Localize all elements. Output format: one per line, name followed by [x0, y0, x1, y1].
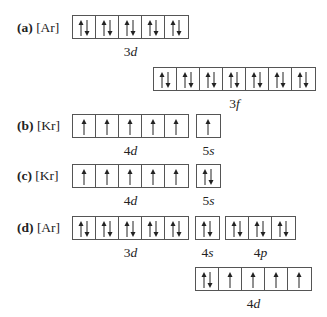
orbital-cell [200, 68, 223, 90]
orbital-cell [165, 217, 188, 239]
orbital-cell [119, 165, 142, 187]
orbital-cell [73, 217, 96, 239]
spin-down-arrow-icon [207, 221, 213, 237]
subshell-label-3d: 3d [124, 245, 138, 261]
orbital-cell [223, 68, 246, 90]
spin-down-arrow-icon [153, 221, 159, 237]
problem-label-c: (c) [Kr] [17, 168, 59, 184]
spin-down-arrow-icon [165, 72, 171, 88]
orbital-cell [197, 115, 220, 137]
spin-up-arrow-icon [81, 169, 87, 185]
subshell-label-3d: 3d [124, 44, 138, 60]
orbital-cell [177, 68, 200, 90]
orbital-box-4d [72, 164, 189, 188]
orbital-box-4p [225, 216, 296, 240]
spin-up-arrow-icon [205, 119, 211, 135]
spin-down-arrow-icon [84, 221, 90, 237]
spin-down-arrow-icon [176, 221, 182, 237]
orbital-box-4d [195, 267, 312, 291]
spin-up-arrow-icon [127, 169, 133, 185]
orbital-cell [96, 16, 119, 38]
orbital-box-3d [72, 216, 189, 240]
orbital-cell [265, 268, 288, 290]
spin-down-arrow-icon [283, 221, 289, 237]
spin-down-arrow-icon [188, 72, 194, 88]
spin-up-arrow-icon [173, 169, 179, 185]
subshell-label-3f: 3f [229, 96, 240, 112]
spin-down-arrow-icon [211, 72, 217, 88]
orbital-cell [119, 16, 142, 38]
problem-label-a: (a) [Ar] [17, 20, 59, 36]
orbital-cell [73, 16, 96, 38]
subshell-label-4d: 4d [124, 193, 138, 209]
problem-label-d: (d) [Ar] [17, 220, 60, 236]
spin-down-arrow-icon [130, 221, 136, 237]
orbital-cell [249, 217, 272, 239]
core-configuration: [Kr] [32, 168, 59, 183]
orbital-cell [96, 165, 119, 187]
orbital-cell [96, 115, 119, 137]
spin-down-arrow-icon [176, 20, 182, 36]
orbital-cell [196, 217, 219, 239]
orbital-cell [142, 165, 165, 187]
problem-tag: (c) [17, 168, 32, 183]
orbital-cell [142, 16, 165, 38]
spin-up-arrow-icon [173, 119, 179, 135]
orbital-cell [197, 165, 220, 187]
problem-tag: (b) [17, 118, 34, 133]
subshell-label-5s: 5s [202, 193, 214, 209]
orbital-cell [288, 268, 311, 290]
spin-down-arrow-icon [130, 20, 136, 36]
spin-down-arrow-icon [84, 20, 90, 36]
spin-down-arrow-icon [107, 221, 113, 237]
spin-up-arrow-icon [127, 119, 133, 135]
spin-down-arrow-icon [234, 72, 240, 88]
spin-up-arrow-icon [81, 119, 87, 135]
spin-up-arrow-icon [227, 272, 233, 288]
spin-up-arrow-icon [150, 169, 156, 185]
orbital-cell [142, 115, 165, 137]
orbital-box-3d [72, 15, 189, 39]
spin-up-arrow-icon [104, 119, 110, 135]
spin-down-arrow-icon [280, 72, 286, 88]
subshell-label-4d: 4d [247, 296, 261, 312]
orbital-cell [142, 217, 165, 239]
orbital-cell [96, 217, 119, 239]
spin-up-arrow-icon [250, 272, 256, 288]
spin-down-arrow-icon [260, 221, 266, 237]
spin-down-arrow-icon [207, 272, 213, 288]
spin-up-arrow-icon [104, 169, 110, 185]
spin-down-arrow-icon [208, 169, 214, 185]
spin-down-arrow-icon [107, 20, 113, 36]
orbital-cell [73, 115, 96, 137]
spin-up-arrow-icon [296, 272, 302, 288]
spin-down-arrow-icon [237, 221, 243, 237]
core-configuration: [Ar] [33, 20, 60, 35]
spin-down-arrow-icon [257, 72, 263, 88]
orbital-box-4s [195, 216, 220, 240]
spin-up-arrow-icon [273, 272, 279, 288]
orbital-cell [226, 217, 249, 239]
orbital-cell [196, 268, 219, 290]
core-configuration: [Kr] [34, 118, 61, 133]
spin-up-arrow-icon [150, 119, 156, 135]
orbital-cell [119, 217, 142, 239]
subshell-label-4d: 4d [124, 143, 138, 159]
orbital-cell [119, 115, 142, 137]
orbital-cell [242, 268, 265, 290]
subshell-label-4s: 4s [201, 245, 213, 261]
problem-tag: (d) [17, 220, 34, 235]
orbital-cell [292, 68, 315, 90]
orbital-box-5s [196, 114, 221, 138]
orbital-cell [165, 165, 188, 187]
orbital-box-3f [153, 67, 316, 91]
orbital-cell [269, 68, 292, 90]
orbital-cell [246, 68, 269, 90]
orbital-cell [154, 68, 177, 90]
orbital-cell [165, 115, 188, 137]
orbital-cell [272, 217, 295, 239]
core-configuration: [Ar] [34, 220, 61, 235]
spin-down-arrow-icon [153, 20, 159, 36]
subshell-label-5s: 5s [202, 143, 214, 159]
orbital-cell [165, 16, 188, 38]
